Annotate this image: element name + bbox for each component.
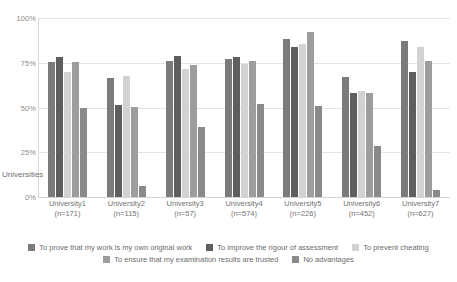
bar[interactable] bbox=[401, 41, 408, 197]
bar-group bbox=[273, 18, 332, 197]
bar[interactable] bbox=[48, 62, 55, 197]
x-axis-tick-label: University1(n=171) bbox=[38, 199, 97, 219]
bar[interactable] bbox=[350, 93, 357, 197]
bar[interactable] bbox=[307, 32, 314, 197]
bar[interactable] bbox=[72, 62, 79, 197]
bar-group bbox=[97, 18, 156, 197]
legend-label: To prevent cheating bbox=[363, 243, 428, 252]
legend-item[interactable]: To prove that my work is my own original… bbox=[28, 243, 192, 252]
x-axis-tick-label: University5(n=226) bbox=[273, 199, 332, 219]
x-axis-tick-label: University2(n=115) bbox=[97, 199, 156, 219]
bar-group bbox=[215, 18, 274, 197]
bar[interactable] bbox=[241, 64, 248, 197]
legend-label: No advantages bbox=[303, 255, 353, 264]
legend-item[interactable]: To improve the rigour of assessment bbox=[206, 243, 338, 252]
bar[interactable] bbox=[107, 78, 114, 197]
bar-chart: 100%75%50%25%0% University1(n=171)Univer… bbox=[0, 0, 457, 282]
bar[interactable] bbox=[139, 186, 146, 197]
x-axis-tick-label: University7(n=627) bbox=[391, 199, 450, 219]
bar[interactable] bbox=[174, 56, 181, 197]
y-axis-tick-label: 0% bbox=[2, 193, 36, 202]
y-axis-tick-label: 100% bbox=[2, 14, 36, 23]
bar[interactable] bbox=[425, 61, 432, 197]
y-axis-tick-label: 75% bbox=[2, 58, 36, 67]
bar[interactable] bbox=[417, 47, 424, 197]
bar[interactable] bbox=[299, 44, 306, 197]
bar[interactable] bbox=[409, 72, 416, 197]
bar[interactable] bbox=[198, 127, 205, 197]
x-axis-tick-label: University6(n=452) bbox=[332, 199, 391, 219]
bar[interactable] bbox=[374, 146, 381, 197]
bar[interactable] bbox=[225, 59, 232, 197]
bar-group bbox=[391, 18, 450, 197]
legend-label: To ensure that my examination results ar… bbox=[114, 255, 278, 264]
bar[interactable] bbox=[315, 106, 322, 197]
legend-label: To improve the rigour of assessment bbox=[217, 243, 338, 252]
bar[interactable] bbox=[182, 69, 189, 197]
y-axis-tick-label: 25% bbox=[2, 148, 36, 157]
plot-area bbox=[38, 18, 450, 197]
bar[interactable] bbox=[123, 76, 130, 197]
bar[interactable] bbox=[291, 47, 298, 197]
legend-swatch-icon bbox=[206, 244, 213, 251]
legend-swatch-icon bbox=[28, 244, 35, 251]
bar[interactable] bbox=[80, 108, 87, 197]
bar[interactable] bbox=[433, 190, 440, 197]
y-axis-tick-label: 50% bbox=[2, 103, 36, 112]
legend-swatch-icon bbox=[292, 256, 299, 263]
legend-item[interactable]: No advantages bbox=[292, 255, 353, 264]
gridline bbox=[38, 197, 450, 198]
bar[interactable] bbox=[64, 72, 71, 197]
legend-label: To prove that my work is my own original… bbox=[39, 243, 192, 252]
bar[interactable] bbox=[249, 61, 256, 197]
bar[interactable] bbox=[166, 61, 173, 197]
legend-item[interactable]: To ensure that my examination results ar… bbox=[103, 255, 278, 264]
legend-item[interactable]: To prevent cheating bbox=[352, 243, 428, 252]
x-axis-tick-labels: University1(n=171)University2(n=115)Univ… bbox=[38, 199, 450, 219]
bar[interactable] bbox=[366, 93, 373, 197]
bar-group bbox=[38, 18, 97, 197]
bar[interactable] bbox=[358, 91, 365, 197]
x-axis-title: Universities bbox=[2, 170, 43, 179]
bar[interactable] bbox=[342, 77, 349, 197]
legend-row: To prove that my work is my own original… bbox=[0, 243, 457, 252]
legend-swatch-icon bbox=[352, 244, 359, 251]
bar[interactable] bbox=[56, 57, 63, 197]
bar[interactable] bbox=[283, 39, 290, 197]
x-axis-tick-label: University3(n=57) bbox=[156, 199, 215, 219]
x-axis-tick-label: University4(n=574) bbox=[215, 199, 274, 219]
bar[interactable] bbox=[115, 105, 122, 197]
bar-group bbox=[156, 18, 215, 197]
chart-legend: To prove that my work is my own original… bbox=[0, 243, 457, 267]
bar[interactable] bbox=[257, 104, 264, 197]
legend-swatch-icon bbox=[103, 256, 110, 263]
legend-row: To ensure that my examination results ar… bbox=[0, 255, 457, 264]
bar[interactable] bbox=[233, 57, 240, 197]
bar[interactable] bbox=[190, 65, 197, 197]
bar-group bbox=[332, 18, 391, 197]
bar-groups bbox=[38, 18, 450, 197]
bar[interactable] bbox=[131, 107, 138, 197]
